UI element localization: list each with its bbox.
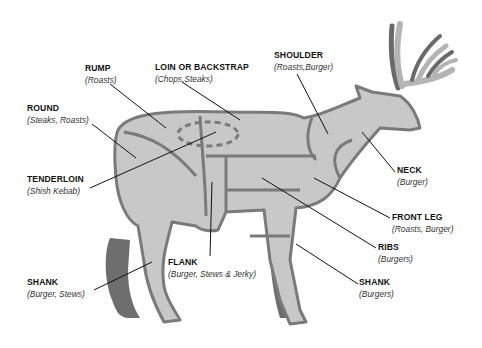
label-front-leg-name: FRONT LEG (392, 213, 453, 223)
label-rump-use: (Roasts) (85, 76, 117, 86)
label-flank-use: (Burger, Stews & Jerky) (168, 270, 256, 280)
label-ribs-use: (Burgers) (378, 255, 413, 265)
label-loin-use: (Chops,Steaks) (155, 75, 249, 85)
label-neck-use: (Burger) (397, 178, 428, 188)
label-shank-front: SHANK (Burgers) (359, 278, 394, 300)
label-tenderloin: TENDERLOIN (Shish Kebab) (27, 175, 84, 197)
label-round: ROUND (Steaks, Roasts) (27, 104, 89, 126)
label-shoulder: SHOULDER (Roasts,Burger) (274, 51, 333, 73)
label-flank: FLANK (Burger, Stews & Jerky) (168, 258, 256, 280)
label-shank-front-name: SHANK (359, 278, 394, 288)
label-shank-rear-name: SHANK (27, 278, 85, 288)
label-loin: LOIN OR BACKSTRAP (Chops,Steaks) (155, 63, 249, 85)
label-loin-name: LOIN OR BACKSTRAP (155, 63, 249, 73)
label-round-use: (Steaks, Roasts) (27, 116, 89, 126)
label-shank-front-use: (Burgers) (359, 290, 394, 300)
label-flank-name: FLANK (168, 258, 256, 268)
label-tenderloin-name: TENDERLOIN (27, 175, 84, 185)
label-neck-name: NECK (397, 166, 428, 176)
label-rump: RUMP (Roasts) (85, 64, 117, 86)
label-shank-rear-use: (Burger, Stews) (27, 290, 85, 300)
antlers (391, 24, 456, 88)
label-ribs-name: RIBS (378, 243, 413, 253)
label-shoulder-name: SHOULDER (274, 51, 333, 61)
label-front-leg: FRONT LEG (Roasts, Burger) (392, 213, 453, 235)
label-front-leg-use: (Roasts, Burger) (392, 225, 453, 235)
label-shoulder-use: (Roasts,Burger) (274, 63, 333, 73)
label-neck: NECK (Burger) (397, 166, 428, 188)
label-tenderloin-use: (Shish Kebab) (27, 187, 84, 197)
label-shank-rear: SHANK (Burger, Stews) (27, 278, 85, 300)
label-rump-name: RUMP (85, 64, 117, 74)
label-round-name: ROUND (27, 104, 89, 114)
label-ribs: RIBS (Burgers) (378, 243, 413, 265)
